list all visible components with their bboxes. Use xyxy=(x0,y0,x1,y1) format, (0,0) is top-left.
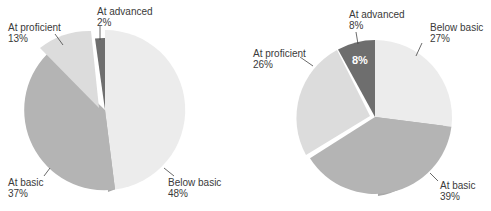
left-label-proficient: At proficient13% xyxy=(8,22,61,44)
right-inner-label-advanced: 8% xyxy=(352,55,368,66)
right-label-below-basic: Below basic27% xyxy=(430,22,483,44)
left-pie xyxy=(24,26,185,192)
right-pie xyxy=(296,32,452,196)
right-slice-below-basic xyxy=(375,40,452,127)
left-label-below-basic: Below basic48% xyxy=(168,177,221,199)
left-slice-below-basic xyxy=(105,30,185,189)
right-label-proficient: At proficient26% xyxy=(253,48,306,70)
pie-charts xyxy=(0,0,491,211)
left-label-basic: At basic37% xyxy=(8,177,44,199)
right-label-basic: At basic39% xyxy=(440,180,476,202)
right-label-advanced: At advanced8% xyxy=(349,9,405,31)
left-label-advanced: At advanced2% xyxy=(97,6,153,28)
